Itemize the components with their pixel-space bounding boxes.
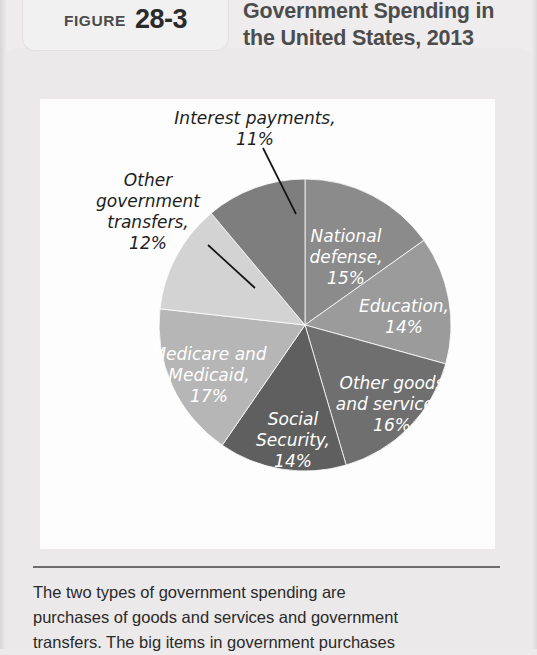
figure-title-line-1: Government Spending in [243,0,535,25]
page-title: Government Spending in the United States… [243,0,535,52]
caption-line-3: transfers. The big items in government p… [33,630,483,655]
figure-number: 28-3 [135,4,187,35]
chart-plot-area [40,99,495,549]
caption-divider [33,566,500,568]
figure-caption: The two types of government spending are… [33,580,483,655]
caption-line-1: The two types of government spending are [33,580,483,605]
caption-line-2: purchases of goods and services and gove… [33,605,483,630]
figure-tab: FIGURE 28-3 [23,0,228,50]
figure-title-line-2: the United States, 2013 [243,25,535,52]
figure-label-word: FIGURE [64,12,126,30]
scan-edge-right [531,0,537,649]
